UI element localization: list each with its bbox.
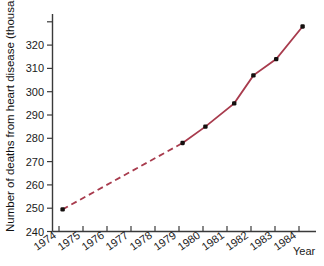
y-tick-label-270: 270 [26,156,44,168]
y-tick-label-310: 310 [26,62,44,74]
chart-canvas: Number of deaths from heart disease (tho… [0,0,324,266]
series-line-dashed [63,143,183,209]
data-point-marker [60,207,64,211]
y-tick-label-260: 260 [26,179,44,191]
y-tick-label-280: 280 [26,132,44,144]
x-axis-title: Year [293,245,316,257]
data-point-marker [300,24,304,28]
x-tick-label-1981: 1981 [199,229,226,253]
y-tick-label-250: 250 [26,202,44,214]
series-line-solid [183,26,303,143]
x-tick-label-1979: 1979 [151,229,178,253]
y-tick-label-290: 290 [26,109,44,121]
data-point-marker [251,73,255,77]
series-markers [60,24,304,211]
line-chart: Number of deaths from heart disease (tho… [0,0,324,266]
x-tick-label-1983: 1983 [247,229,274,253]
y-tick-label-320: 320 [26,39,44,51]
x-tick-label-1976: 1976 [79,229,106,253]
y-axis-title: Number of deaths from heart disease (tho… [4,0,16,232]
data-point-marker [203,124,207,128]
y-axis-ticks: 240 250 260 270 280 290 300 310 320 [26,22,53,238]
data-point-marker [274,57,278,61]
data-point-marker [180,141,184,145]
x-axis-tick-labels: 1974 1975 1976 1977 1978 1979 1980 1981 … [31,229,298,253]
x-tick-label-1982: 1982 [223,229,250,253]
data-point-marker [232,101,236,105]
x-tick-label-1977: 1977 [103,229,130,253]
x-tick-label-1980: 1980 [175,229,202,253]
x-tick-label-1975: 1975 [55,229,82,253]
y-tick-label-300: 300 [26,86,44,98]
x-tick-label-1978: 1978 [127,229,154,253]
